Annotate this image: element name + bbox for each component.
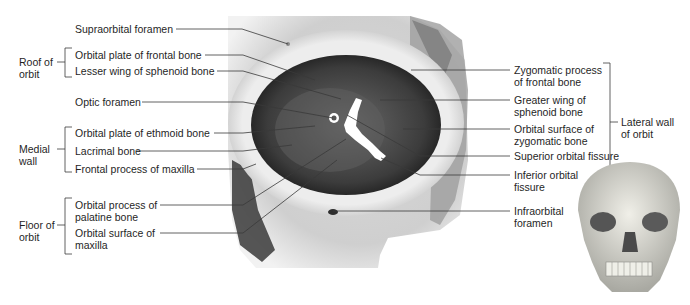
label-orbital-surface-zygomatic: Orbital surface of zygomatic bone (514, 123, 594, 147)
label-line: zygomatic bone (514, 135, 594, 147)
group-label-floor-of-orbit: Floor of orbit (19, 219, 55, 243)
label-line: Inferior orbital (514, 169, 578, 181)
label-zygomatic-process-frontal: Zygomatic process of frontal bone (514, 64, 602, 88)
label-orbital-process-palatine: Orbital process of palatine bone (75, 199, 157, 223)
label-line: Orbital process of (75, 199, 157, 211)
label-line: sphenoid bone (514, 106, 586, 118)
group-label-roof-of-orbit: Roof of orbit (19, 56, 53, 80)
label-inferior-orbital-fissure: Inferior orbital fissure (514, 169, 578, 193)
label-lesser-wing-sphenoid: Lesser wing of sphenoid bone (75, 65, 215, 77)
label-line: Orbital surface of (75, 227, 155, 239)
label-line: Orbital surface of (514, 123, 594, 135)
label-line: palatine bone (75, 211, 157, 223)
group-label-line: Medial (19, 143, 50, 155)
group-label-line: wall (19, 155, 50, 167)
group-label-line: Lateral wall (621, 116, 674, 128)
group-label-line: Roof of (19, 56, 53, 68)
label-supraorbital-foramen: Supraorbital foramen (75, 23, 173, 35)
label-lacrimal-bone: Lacrimal bone (75, 145, 141, 157)
label-orbital-plate-frontal: Orbital plate of frontal bone (75, 49, 202, 61)
group-label-line: orbit (19, 231, 55, 243)
label-optic-foramen: Optic foramen (75, 96, 141, 108)
group-label-medial-wall: Medial wall (19, 143, 50, 167)
label-line: of frontal bone (514, 76, 602, 88)
label-line: Greater wing of (514, 94, 586, 106)
label-line: Zygomatic process (514, 64, 602, 76)
label-frontal-process-maxilla: Frontal process of maxilla (75, 163, 195, 175)
skull-thumbnail (578, 162, 680, 292)
label-orbital-plate-ethmoid: Orbital plate of ethmoid bone (75, 127, 210, 139)
label-line: Infraorbital (514, 205, 564, 217)
label-superior-orbital-fissure: Superior orbital fissure (514, 150, 619, 162)
label-line: maxilla (75, 239, 155, 251)
group-label-line: of orbit (621, 128, 674, 140)
group-label-line: orbit (19, 68, 53, 80)
label-greater-wing-sphenoid: Greater wing of sphenoid bone (514, 94, 586, 118)
orbit-bone-block (228, 16, 468, 268)
label-orbital-surface-maxilla: Orbital surface of maxilla (75, 227, 155, 251)
group-label-lateral-wall: Lateral wall of orbit (621, 116, 674, 140)
label-infraorbital-foramen: Infraorbital foramen (514, 205, 564, 229)
label-line: foramen (514, 217, 564, 229)
label-line: fissure (514, 181, 578, 193)
group-label-line: Floor of (19, 219, 55, 231)
